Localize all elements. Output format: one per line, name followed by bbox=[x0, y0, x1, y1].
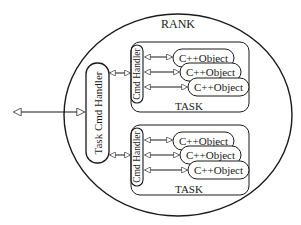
task-2-cmd-handler-label: Cmd Handler bbox=[132, 130, 142, 182]
task-1-object-3: C++Object bbox=[188, 78, 249, 96]
task-cmd-handler: Task Cmd Handler bbox=[86, 63, 109, 163]
task-2-cmd-handler: Cmd Handler bbox=[131, 128, 143, 186]
svg-text:C++Object: C++Object bbox=[179, 52, 228, 64]
task-2-label: TASK bbox=[175, 183, 203, 195]
task-1-label: TASK bbox=[175, 100, 203, 112]
task-2-object-3: C++Object bbox=[188, 161, 249, 179]
svg-text:C++Object: C++Object bbox=[179, 135, 228, 147]
task-1: TASK Cmd Handler C++Object C++Object C++… bbox=[131, 42, 249, 112]
task-1-cmd-handler-label: Cmd Handler bbox=[132, 47, 142, 99]
svg-text:C++Object: C++Object bbox=[194, 164, 243, 176]
svg-text:C++Object: C++Object bbox=[186, 66, 235, 78]
svg-text:C++Object: C++Object bbox=[194, 81, 243, 93]
rank-label: RANK bbox=[161, 17, 195, 31]
task-2: TASK Cmd Handler C++Object C++Object C++… bbox=[131, 125, 249, 195]
task-cmd-handler-label: Task Cmd Handler bbox=[92, 71, 104, 154]
architecture-diagram: RANK Task Cmd Handler TASK Cmd Handler C… bbox=[0, 0, 301, 225]
svg-text:C++Object: C++Object bbox=[186, 149, 235, 161]
task-1-cmd-handler: Cmd Handler bbox=[131, 45, 143, 103]
